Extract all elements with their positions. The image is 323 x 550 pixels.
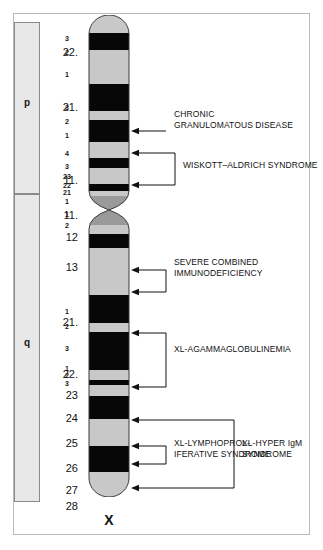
subband-label-13: 2 [60, 222, 74, 229]
subband-label-18: 2 [60, 372, 74, 379]
region-label-q-11: 26 [44, 463, 78, 474]
band-q24 [88, 419, 130, 446]
band-p11.21 [88, 191, 130, 196]
subband-label-12: 1 [60, 211, 74, 218]
region-label-q-12: 27 [44, 485, 78, 496]
subband-label-19: 3 [60, 380, 74, 387]
band-q22.2 [88, 380, 130, 385]
band-q25 [88, 446, 130, 472]
annotation-label-xla: XL-AGAMMAGLOBULINEMIA [174, 344, 291, 355]
band-q22.1 [88, 370, 130, 380]
subband-label-8: 23 [60, 173, 74, 180]
band-p21.2 [88, 111, 130, 120]
chromosome-name-label: X [88, 512, 130, 528]
subband-label-16: 3 [60, 345, 74, 352]
subband-label-0: 3 [60, 35, 74, 42]
band-q11.2 [88, 225, 130, 234]
annotation-label-cgd: CHRONIC GRANULOMATOUS DISEASE [174, 109, 293, 131]
band-q13 [88, 248, 130, 295]
annotation-label-xhim: XL-HYPER IgM SYNDROME [242, 438, 302, 460]
subband-label-15: 2 [60, 323, 74, 330]
subband-label-17: 1 [60, 365, 74, 372]
region-label-q-10: 25 [44, 438, 78, 449]
band-p11.4 [88, 142, 130, 158]
region-label-q-4: 12 [44, 232, 78, 243]
band-p22.3 [88, 15, 130, 33]
band-p11.3 [88, 158, 130, 168]
band-q21.2 [88, 323, 130, 332]
subband-label-3: 3 [60, 104, 74, 111]
region-label-q-5: 13 [44, 262, 78, 273]
band-q21.1 [88, 295, 130, 323]
subband-label-1: 2 [60, 49, 74, 56]
subband-label-6: 4 [60, 150, 74, 157]
band-p22.1 [88, 50, 130, 84]
band-q26 [88, 472, 130, 497]
band-q21.3 [88, 332, 130, 370]
subband-label-9: 22 [60, 182, 74, 189]
subband-label-10: 21 [60, 189, 74, 196]
arm-bracket-p: p [14, 22, 40, 194]
band-p11.23 [88, 168, 130, 184]
subband-label-7: 3 [60, 163, 74, 170]
band-q12 [88, 234, 130, 248]
band-p11.1 [88, 196, 130, 210]
band-p21.3 [88, 84, 130, 111]
chromosome-ideogram-x [88, 15, 130, 497]
annotation-label-scid: SEVERE COMBINED IMMUNODEFICIENCY [174, 257, 263, 279]
region-label-q-9: 24 [44, 413, 78, 424]
band-p22.2 [88, 33, 130, 50]
arm-label-p: p [15, 97, 39, 108]
subband-label-5: 1 [60, 132, 74, 139]
figure-page: p q 22.21.11.11.121321.22.232425262728 3… [0, 0, 323, 550]
band-p11.22 [88, 184, 130, 191]
subband-label-4: 2 [60, 118, 74, 125]
annotation-label-was: WISKOTT–ALDRICH SYNDROME [183, 160, 318, 171]
region-label-q-8: 23 [44, 390, 78, 401]
band-q23 [88, 396, 130, 419]
arm-bracket-q: q [14, 194, 40, 502]
subband-label-2: 1 [60, 71, 74, 78]
band-q22.3 [88, 385, 130, 396]
subband-label-11: 1 [60, 198, 74, 205]
region-label-q-13: 28 [44, 501, 78, 512]
arm-label-q: q [15, 337, 39, 348]
chromosome-band-svg [88, 15, 130, 497]
band-p21.1 [88, 120, 130, 142]
subband-label-14: 1 [60, 308, 74, 315]
